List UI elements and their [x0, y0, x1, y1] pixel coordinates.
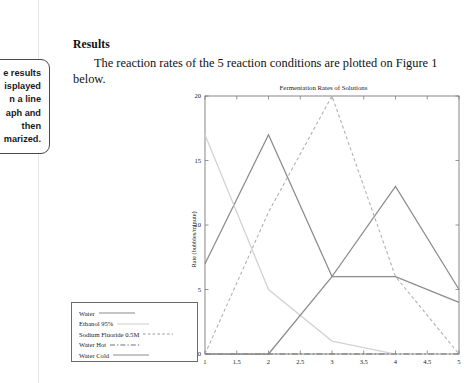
series-line-sodium-fluoride-0-5m — [205, 96, 459, 354]
annotation-line-1: e results — [0, 67, 41, 80]
x-tick-label: 4.5 — [423, 358, 432, 365]
y-tick-label: 15 — [194, 157, 201, 164]
annotation-line-3: n a line — [0, 93, 41, 106]
legend-line-swatch-dashed — [142, 332, 174, 336]
y-tick-label: 5 — [198, 286, 202, 293]
results-heading: Results — [73, 38, 110, 51]
chart-legend: Water Ethanol 95% Sodium Fluoride 0.5M W… — [71, 302, 198, 362]
legend-item-water-hot: Water Hot — [79, 340, 197, 350]
x-tick-label: 1.5 — [233, 358, 242, 365]
results-paragraph: The reaction rates of the 5 reaction con… — [73, 55, 461, 88]
x-tick-label: 2.5 — [296, 358, 305, 365]
x-tick-label: 5 — [457, 358, 461, 365]
paragraph-text: The reaction rates of the 5 reaction con… — [73, 56, 437, 86]
legend-item-water: Water — [79, 308, 197, 318]
x-tick-label: 4 — [394, 358, 398, 365]
legend-label: Ethanol 95% — [79, 320, 113, 327]
y-tick-label: 20 — [194, 92, 201, 99]
legend-item-water-cold: Water Cold — [79, 350, 197, 360]
legend-item-ethanol: Ethanol 95% — [79, 319, 197, 329]
annotation-line-6: marized. — [0, 133, 41, 146]
page-margin-rule — [38, 0, 39, 383]
legend-line-swatch-dashdot — [109, 343, 141, 347]
legend-label: Water Cold — [79, 352, 109, 359]
legend-line-swatch-solid — [98, 311, 136, 315]
annotation-line-2: isplayed — [0, 80, 41, 93]
legend-label: Water — [79, 310, 95, 317]
legend-line-swatch-solid-light — [116, 322, 150, 326]
x-tick-label: 1 — [203, 358, 206, 365]
legend-item-sodium-fluoride: Sodium Fluoride 0.5M — [79, 329, 197, 339]
x-tick-label: 2 — [267, 358, 270, 365]
figure-1: Fermentation Rates of Solutions Rate (bu… — [183, 84, 464, 374]
plot-frame — [205, 96, 459, 354]
annotation-callout: e results isplayed n a line aph and then… — [0, 59, 50, 154]
legend-label: Sodium Fluoride 0.5M — [79, 331, 139, 338]
annotation-line-4: aph and — [0, 107, 41, 120]
series-line-ethanol-95 — [205, 135, 459, 354]
series-line-water-cold — [205, 277, 459, 354]
line-chart-plot: 11.522.533.544.5505101520 — [183, 84, 464, 374]
legend-line-swatch-solid-2 — [112, 353, 150, 357]
legend-label: Water Hot — [79, 341, 106, 348]
series-line-water — [205, 135, 459, 290]
page-canvas: e results isplayed n a line aph and then… — [0, 0, 464, 383]
x-tick-label: 3 — [330, 358, 334, 365]
y-tick-label: 0 — [198, 350, 202, 357]
annotation-line-5: then — [0, 120, 41, 133]
x-tick-label: 3.5 — [360, 358, 369, 365]
y-tick-label: 10 — [194, 221, 201, 228]
